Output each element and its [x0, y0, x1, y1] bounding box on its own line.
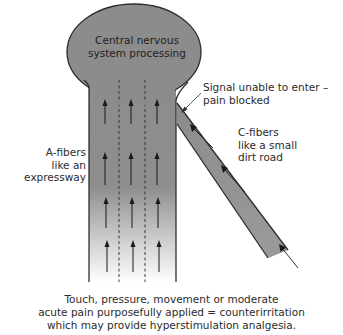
blocked-label-line: pain blocked — [203, 94, 328, 107]
a-fibers-label-line: A-fibers — [8, 146, 86, 159]
c-fibers-label: C-fibers like a small dirt road — [238, 126, 297, 164]
blocked-label-line: Signal unable to enter – — [203, 81, 328, 94]
caption-line: acute pain purposefully applied = counte… — [0, 306, 343, 319]
caption: Touch, pressure, movement or moderate ac… — [0, 293, 343, 332]
cns-label-line: system processing — [78, 47, 196, 60]
caption-line: Touch, pressure, movement or moderate — [0, 293, 343, 306]
c-fibers-label-line: C-fibers — [238, 126, 297, 139]
a-fibers-label-line: like an — [8, 159, 86, 172]
arrow-diagonal-icon — [279, 244, 298, 268]
blocked-label: Signal unable to enter – pain blocked — [203, 81, 328, 106]
cns-label-line: Central nervous — [78, 34, 196, 47]
cns-label: Central nervous system processing — [78, 34, 196, 59]
a-fibers-label-line: expressway — [8, 171, 86, 184]
c-fibers-label-line: like a small — [238, 139, 297, 152]
blocked-pointer — [181, 93, 201, 113]
c-fibers-label-line: dirt road — [238, 151, 297, 164]
a-fibers-label: A-fibers like an expressway — [8, 146, 86, 184]
caption-line: which may provide hyperstimulation analg… — [0, 319, 343, 332]
